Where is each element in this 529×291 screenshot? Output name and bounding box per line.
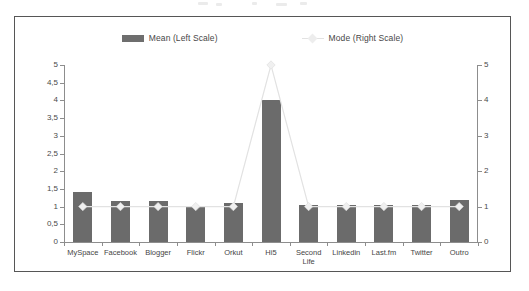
x-tick-label: Second Life <box>296 249 321 266</box>
x-axis-line <box>64 242 478 243</box>
legend-swatch-line-diamond-icon <box>302 35 324 42</box>
x-tick-mark <box>440 242 441 246</box>
x-tick-label: Outro <box>450 249 469 258</box>
right-tick-label: 4 <box>484 96 488 104</box>
right-tick-mark <box>478 171 482 172</box>
x-tick-mark <box>365 242 366 246</box>
mode-marker-diamond-icon <box>380 202 388 210</box>
right-tick-mark <box>478 207 482 208</box>
left-tick-label: 1,5 <box>47 185 58 193</box>
x-tick-mark <box>252 242 253 246</box>
left-tick-label: 2,5 <box>47 150 58 158</box>
x-tick-mark <box>102 242 103 246</box>
mode-marker-diamond-icon <box>342 202 350 210</box>
right-tick-mark <box>478 136 482 137</box>
left-tick-label: 1 <box>54 203 58 211</box>
x-tick-label: Flickr <box>187 249 205 258</box>
legend-entry-mean[interactable]: Mean (Left Scale) <box>122 33 218 43</box>
right-tick-mark <box>478 100 482 101</box>
mode-marker-diamond-icon <box>417 202 425 210</box>
x-tick-label: Facebook <box>104 249 137 258</box>
mode-marker-diamond-icon <box>154 202 162 210</box>
legend-entry-mode[interactable]: Mode (Right Scale) <box>302 33 404 43</box>
right-tick-label: 5 <box>484 61 488 69</box>
right-tick-label: 3 <box>484 132 488 140</box>
chart-frame: Mean (Left Scale) Mode (Right Scale) 00,… <box>14 16 511 272</box>
right-tick-label: 1 <box>484 203 488 211</box>
mode-marker-diamond-icon <box>229 202 237 210</box>
chart-legend: Mean (Left Scale) Mode (Right Scale) <box>15 33 510 43</box>
legend-swatch-bar-icon <box>122 35 144 42</box>
x-tick-mark <box>327 242 328 246</box>
x-tick-label: Twitter <box>410 249 432 258</box>
left-tick-label: 0,5 <box>47 220 58 228</box>
left-tick-label: 4,5 <box>47 79 58 87</box>
right-tick-label: 2 <box>484 167 488 175</box>
left-tick-label: 2 <box>54 167 58 175</box>
x-tick-label: Hi5 <box>265 249 276 258</box>
x-tick-label: MySpace <box>67 249 98 258</box>
x-tick-label: Orkut <box>224 249 242 258</box>
mode-marker-diamond-icon <box>267 61 275 69</box>
x-tick-mark <box>177 242 178 246</box>
left-tick-label: 0 <box>54 238 58 246</box>
x-tick-mark <box>478 242 479 246</box>
x-tick-label: Linkedin <box>332 249 360 258</box>
x-tick-label: Blogger <box>145 249 171 258</box>
legend-label-mode: Mode (Right Scale) <box>329 33 404 43</box>
left-tick-label: 4 <box>54 96 58 104</box>
x-tick-mark <box>290 242 291 246</box>
left-tick-label: 3 <box>54 132 58 140</box>
right-tick-label: 0 <box>484 238 488 246</box>
mode-marker-diamond-icon <box>304 202 312 210</box>
left-tick-label: 5 <box>54 61 58 69</box>
x-tick-mark <box>215 242 216 246</box>
scan-artifact <box>0 0 529 10</box>
mode-marker-diamond-icon <box>79 202 87 210</box>
plot-area: 00,511,522,533,544,55 012345 MySpaceFace… <box>64 65 478 242</box>
x-tick-label: Last.fm <box>372 249 397 258</box>
line-series-mode <box>64 65 478 242</box>
mode-marker-diamond-icon <box>455 202 463 210</box>
x-tick-mark <box>64 242 65 246</box>
left-tick-label: 3,5 <box>47 114 58 122</box>
legend-label-mean: Mean (Left Scale) <box>149 33 218 43</box>
right-tick-mark <box>478 65 482 66</box>
x-tick-mark <box>139 242 140 246</box>
mode-marker-diamond-icon <box>116 202 124 210</box>
x-tick-mark <box>403 242 404 246</box>
mode-marker-diamond-icon <box>192 202 200 210</box>
